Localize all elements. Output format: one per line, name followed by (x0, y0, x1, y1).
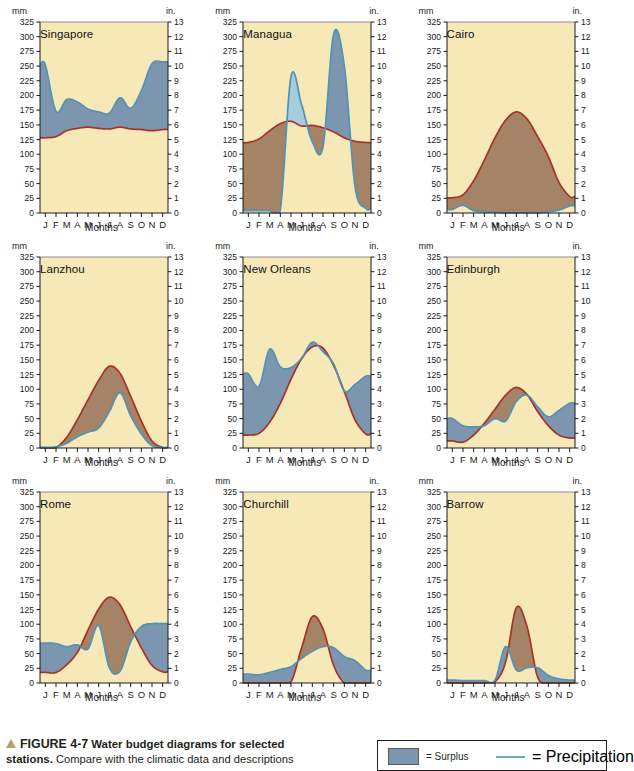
svg-text:12: 12 (581, 502, 591, 512)
svg-text:4: 4 (581, 619, 586, 629)
svg-text:300: 300 (20, 267, 34, 277)
svg-text:0: 0 (377, 208, 382, 218)
svg-text:75: 75 (431, 164, 441, 174)
svg-text:325: 325 (20, 252, 34, 262)
station-title: New Orleans (243, 263, 311, 275)
station-title: Singapore (40, 28, 93, 40)
svg-text:2: 2 (174, 649, 179, 659)
left-axis-unit: mm (419, 6, 434, 16)
svg-text:225: 225 (20, 76, 34, 86)
svg-text:100: 100 (20, 149, 34, 159)
svg-text:4: 4 (581, 149, 586, 159)
svg-text:225: 225 (223, 546, 237, 556)
svg-text:5: 5 (377, 135, 382, 145)
svg-text:3: 3 (377, 399, 382, 409)
svg-text:25: 25 (25, 193, 35, 203)
svg-text:0: 0 (377, 443, 382, 453)
svg-text:200: 200 (223, 560, 237, 570)
svg-text:50: 50 (431, 414, 441, 424)
svg-text:2: 2 (377, 649, 382, 659)
svg-text:150: 150 (223, 355, 237, 365)
x-axis-title: Months (407, 222, 610, 233)
svg-text:0: 0 (29, 443, 34, 453)
svg-text:3: 3 (377, 164, 382, 174)
svg-text:125: 125 (426, 605, 440, 615)
svg-text:9: 9 (174, 311, 179, 321)
svg-text:250: 250 (223, 61, 237, 71)
right-axis-unit: in. (369, 241, 379, 251)
svg-text:6: 6 (581, 355, 586, 365)
svg-text:8: 8 (174, 325, 179, 335)
svg-text:2: 2 (174, 179, 179, 189)
svg-text:175: 175 (20, 340, 34, 350)
svg-text:8: 8 (581, 90, 586, 100)
svg-text:150: 150 (20, 120, 34, 130)
svg-text:250: 250 (426, 61, 440, 71)
precipitation-line-icon (496, 756, 525, 758)
svg-text:3: 3 (581, 634, 586, 644)
svg-text:325: 325 (426, 487, 440, 497)
svg-text:7: 7 (377, 340, 382, 350)
x-axis-title: Months (203, 457, 406, 468)
chart-plot-managua: 0255075100125150175200225250275300325012… (203, 0, 406, 235)
svg-text:175: 175 (223, 340, 237, 350)
svg-text:8: 8 (377, 90, 382, 100)
svg-text:6: 6 (377, 355, 382, 365)
chart-plot-lanzhou: 0255075100125150175200225250275300325012… (0, 235, 203, 470)
legend-surplus-label: = Surplus (426, 751, 469, 762)
svg-text:10: 10 (581, 296, 591, 306)
svg-text:1: 1 (581, 428, 586, 438)
chart-panel: 0255075100125150175200225250275300325012… (0, 470, 203, 720)
svg-text:200: 200 (223, 90, 237, 100)
svg-text:9: 9 (581, 311, 586, 321)
svg-text:12: 12 (581, 32, 591, 42)
svg-text:7: 7 (581, 105, 586, 115)
svg-text:75: 75 (431, 634, 441, 644)
svg-text:0: 0 (436, 208, 441, 218)
svg-text:0: 0 (581, 678, 586, 688)
svg-text:11: 11 (581, 281, 590, 291)
svg-text:325: 325 (426, 252, 440, 262)
svg-text:11: 11 (377, 46, 386, 56)
x-axis-title: Months (203, 222, 406, 233)
svg-text:100: 100 (426, 619, 440, 629)
svg-text:325: 325 (20, 487, 34, 497)
svg-text:50: 50 (25, 414, 35, 424)
svg-text:100: 100 (223, 619, 237, 629)
svg-text:1: 1 (174, 663, 179, 673)
svg-text:300: 300 (223, 267, 237, 277)
svg-text:275: 275 (223, 46, 237, 56)
svg-text:150: 150 (223, 120, 237, 130)
svg-text:13: 13 (377, 17, 387, 27)
legend-item-precipitation: = Precipitation (496, 748, 634, 766)
left-axis-unit: mm (215, 241, 230, 251)
svg-text:13: 13 (377, 487, 387, 497)
svg-text:5: 5 (174, 605, 179, 615)
svg-text:2: 2 (174, 414, 179, 424)
svg-text:75: 75 (228, 634, 238, 644)
svg-text:5: 5 (174, 370, 179, 380)
svg-text:200: 200 (426, 90, 440, 100)
svg-text:5: 5 (377, 370, 382, 380)
svg-text:9: 9 (174, 546, 179, 556)
svg-text:13: 13 (581, 17, 591, 27)
svg-text:2: 2 (581, 179, 586, 189)
svg-text:3: 3 (581, 399, 586, 409)
svg-text:275: 275 (20, 46, 34, 56)
caption-label: FIGURE 4-7 (20, 737, 88, 751)
svg-text:0: 0 (29, 208, 34, 218)
svg-text:7: 7 (377, 105, 382, 115)
svg-text:5: 5 (377, 605, 382, 615)
chart-panel: 0255075100125150175200225250275300325012… (407, 235, 610, 470)
chart-plot-new-orleans: 0255075100125150175200225250275300325012… (203, 235, 406, 470)
x-axis-title: Months (0, 457, 203, 468)
svg-text:2: 2 (581, 649, 586, 659)
svg-text:250: 250 (426, 531, 440, 541)
left-axis-unit: mm (419, 241, 434, 251)
svg-text:0: 0 (174, 208, 179, 218)
svg-text:0: 0 (174, 443, 179, 453)
left-axis-unit: mm (215, 476, 230, 486)
svg-text:50: 50 (431, 649, 441, 659)
chart-plot-cairo: 0255075100125150175200225250275300325012… (407, 0, 610, 235)
svg-text:125: 125 (426, 135, 440, 145)
